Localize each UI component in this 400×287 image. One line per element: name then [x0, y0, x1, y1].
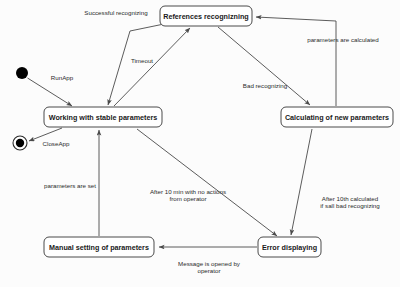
transition-label-close-app: CloseApp: [43, 140, 70, 147]
state-label-error-displaying: Error displaying: [262, 243, 317, 252]
state-diagram: References recognizning Working with sta…: [0, 0, 400, 287]
state-calculating-of-new-parameters[interactable]: Calculating of new parameters: [281, 107, 393, 127]
svg-text:from operator: from operator: [169, 195, 206, 202]
transition-bad-recognizing: [218, 27, 310, 105]
transition-timeout: [114, 28, 190, 106]
transition-label-message-opened: Message is opened by operator: [178, 260, 241, 274]
transition-run-app: [28, 78, 73, 106]
state-manual-setting-of-parameters[interactable]: Manual setting of parameters: [44, 237, 154, 257]
transition-label-successful-recognizing: Successful recognizing: [84, 9, 148, 16]
transition-label-after-10-min: After 10 min with no actions from operat…: [150, 188, 226, 202]
transition-label-run-app: RunApp: [51, 74, 74, 81]
transition-label-parameters-are-set: parameters are set: [44, 182, 96, 189]
svg-text:Message is opened by: Message is opened by: [178, 260, 241, 267]
svg-text:After 10 min with no actions: After 10 min with no actions: [150, 188, 226, 195]
diagram-canvas: References recognizning Working with sta…: [0, 0, 400, 287]
transition-label-bad-recognizing: Bad recognizing: [243, 82, 288, 89]
svg-text:operator: operator: [197, 267, 220, 274]
final-state-node: [13, 136, 27, 150]
state-label-references-recognizing: References recognizning: [163, 12, 248, 21]
state-error-displaying[interactable]: Error displaying: [258, 237, 321, 257]
transition-successful-recognizing: [108, 24, 164, 105]
transition-after-10th-calculated: [291, 129, 312, 235]
initial-state-node: [16, 67, 28, 79]
state-label-working-with-stable-parameters: Working with stable parameters: [49, 113, 158, 122]
svg-text:After 10th calculated: After 10th calculated: [322, 195, 379, 202]
transition-after-10-min: [137, 129, 277, 236]
transition-label-parameters-are-calculated: parameters are calculated: [307, 36, 379, 43]
state-working-with-stable-parameters[interactable]: Working with stable parameters: [44, 107, 162, 127]
svg-text:if sall bad recognizing: if sall bad recognizing: [320, 202, 380, 209]
state-label-manual-setting-of-parameters: Manual setting of parameters: [49, 243, 149, 252]
transition-label-timeout: Timeout: [131, 57, 153, 64]
state-references-recognizing[interactable]: References recognizning: [160, 6, 252, 26]
state-label-calculating-of-new-parameters: Calculating of new parameters: [285, 113, 389, 122]
transition-label-after-10th-calculated: After 10th calculated if sall bad recogn…: [320, 195, 380, 209]
